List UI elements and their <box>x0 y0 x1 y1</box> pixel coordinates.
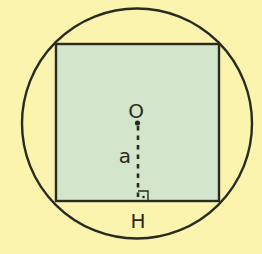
label-center-o: O <box>128 99 144 123</box>
geometry-figure: O a H <box>0 0 262 254</box>
right-angle-dot <box>142 196 145 199</box>
label-foot-h: H <box>130 209 145 233</box>
diagram-canvas: O a H <box>0 0 262 254</box>
label-apothem-a: a <box>119 144 131 168</box>
